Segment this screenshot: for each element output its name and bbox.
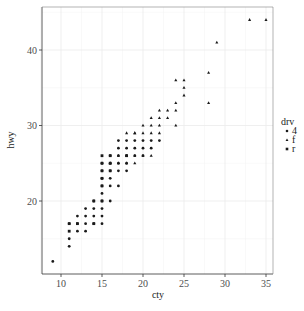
legend-triangle-icon (286, 138, 289, 141)
y-tick-label: 20 (27, 196, 37, 207)
x-tick-label: 35 (261, 278, 271, 289)
x-tick-label: 10 (56, 278, 66, 289)
x-tick-label: 25 (179, 278, 189, 289)
legend-square-icon (286, 148, 289, 151)
x-tick-label: 20 (138, 278, 148, 289)
x-axis-title: cty (152, 289, 164, 300)
y-tick-label: 30 (27, 120, 37, 131)
legend-label: r (292, 143, 296, 154)
y-tick-label: 40 (27, 45, 37, 56)
x-tick-label: 30 (220, 278, 230, 289)
scatter-chart: 101520253035203040 cty hwy drv 4fr (0, 0, 304, 311)
y-axis-title: hwy (5, 131, 16, 148)
legend: drv 4fr (281, 116, 297, 154)
x-tick-label: 15 (97, 278, 107, 289)
plot-panel (42, 7, 273, 274)
legend-item-r: r (286, 143, 296, 154)
legend-circle-icon (286, 130, 289, 133)
